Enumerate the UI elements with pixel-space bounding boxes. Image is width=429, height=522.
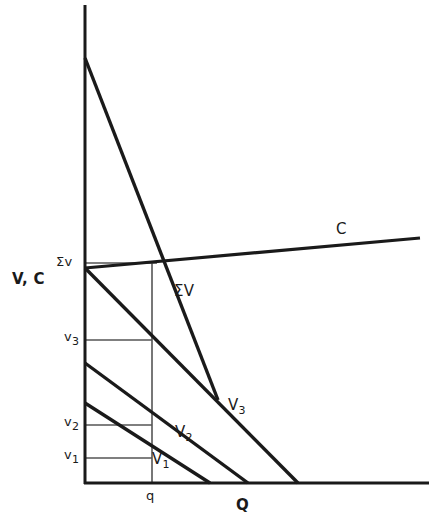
tick-label-v3: v3: [64, 330, 79, 347]
curve-label-V3-main: V: [228, 396, 239, 414]
y-axis-label: V, C: [12, 272, 45, 287]
tick-label-v1-sub: 1: [72, 453, 79, 466]
curve-V3: [85, 268, 298, 483]
tick-label-v3-main: v: [64, 329, 72, 344]
curve-label-sigma-V: ΣV: [174, 284, 194, 299]
tick-label-v1: v1: [64, 448, 79, 465]
tick-label-v3-sub: 3: [72, 335, 79, 348]
curve-label-V2-main: V: [175, 423, 186, 441]
curve-label-V2-sub: 2: [186, 431, 193, 444]
tick-label-sigma-v: Σv: [56, 255, 73, 268]
curve-label-C: C: [336, 222, 347, 237]
tick-label-v2-sub: 2: [72, 420, 79, 433]
tick-label-v1-main: v: [64, 447, 72, 462]
curve-label-V3: V3: [228, 398, 246, 416]
curve-label-V2: V2: [175, 425, 193, 443]
economics-diagram-figure: V, C Q Σv v3 v2 v1 q C ΣV V3 V2 V1: [0, 0, 429, 522]
x-axis-label: Q: [236, 498, 249, 513]
curve-label-V1-main: V: [152, 450, 163, 468]
curve-label-V3-sub: 3: [239, 404, 246, 417]
tick-label-q: q: [146, 489, 155, 502]
curve-label-V1: V1: [152, 452, 170, 470]
curve-C-cost: [85, 238, 420, 268]
tick-label-v2-main: v: [64, 414, 72, 429]
curve-label-V1-sub: 1: [163, 458, 170, 471]
curve-lines: [85, 58, 420, 483]
axes-group: [84, 5, 429, 484]
tick-label-v2: v2: [64, 415, 79, 432]
